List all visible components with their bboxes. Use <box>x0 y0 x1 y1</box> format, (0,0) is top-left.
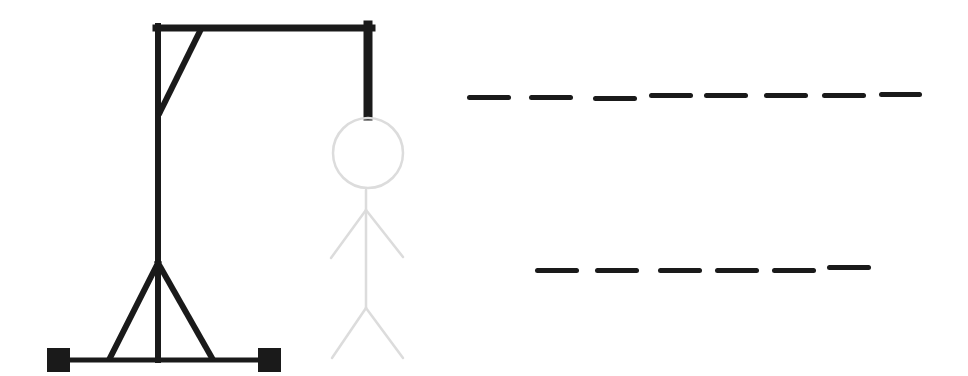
letter-blank <box>467 95 511 100</box>
figure-right-arm <box>366 210 403 257</box>
letter-blank <box>649 93 693 98</box>
gallows-tripod-right <box>158 263 212 358</box>
gallows-foot-left <box>47 348 70 372</box>
letter-blank <box>658 268 702 273</box>
letter-blank <box>593 96 637 101</box>
letter-blank <box>822 93 866 98</box>
figure-left-leg <box>332 308 366 358</box>
gallows-drawing <box>0 0 968 376</box>
figure-right-leg <box>366 308 403 358</box>
letter-blank <box>704 93 748 98</box>
letter-blank <box>772 268 816 273</box>
gallows <box>47 25 372 372</box>
letter-blank <box>529 95 573 100</box>
letter-blank <box>535 268 579 273</box>
letter-blank <box>764 93 808 98</box>
letter-blank <box>595 268 639 273</box>
letter-blank <box>827 265 871 270</box>
gallows-tripod-left <box>110 263 158 358</box>
letter-blank <box>715 268 759 273</box>
hangman-board <box>0 0 968 376</box>
gallows-brace <box>160 31 200 112</box>
gallows-foot-right <box>258 348 281 372</box>
letter-blank <box>879 92 922 97</box>
figure-head <box>333 118 403 188</box>
figure-left-arm <box>331 210 366 258</box>
hangman-figure <box>331 118 403 358</box>
